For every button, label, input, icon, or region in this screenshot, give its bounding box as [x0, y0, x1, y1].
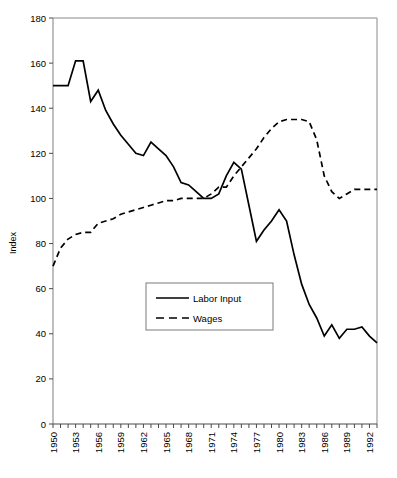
y-tick-label: 20	[35, 373, 46, 384]
x-tick-label: 1983	[296, 432, 307, 453]
x-tick-label: 1986	[319, 432, 330, 453]
x-tick-label: 1980	[274, 432, 285, 453]
legend-label-2: Wages	[193, 313, 222, 324]
x-tick-label: 1974	[228, 432, 239, 453]
x-tick-label: 1968	[183, 432, 194, 453]
x-tick-label: 1950	[48, 432, 59, 453]
x-tick-label: 1953	[70, 432, 81, 453]
y-tick-label: 140	[30, 103, 46, 114]
chart-figure: 020406080100120140160180 195019531956195…	[0, 0, 397, 478]
series-line-wages	[53, 120, 377, 267]
plot-frame	[53, 18, 377, 424]
line-chart: 020406080100120140160180 195019531956195…	[0, 0, 397, 478]
x-axis-ticks: 1950195319561959196219651968197119741977…	[48, 424, 377, 453]
y-tick-label: 60	[35, 283, 46, 294]
chart-legend: Labor InputWages	[146, 283, 273, 330]
y-tick-label: 180	[30, 13, 46, 24]
y-axis-title: Index	[8, 231, 18, 254]
y-tick-label: 100	[30, 193, 46, 204]
x-tick-label: 1956	[93, 432, 104, 453]
x-tick-label: 1965	[161, 432, 172, 453]
y-tick-label: 0	[41, 419, 46, 430]
x-tick-label: 1971	[206, 432, 217, 453]
x-tick-label: 1962	[138, 432, 149, 453]
y-tick-label: 160	[30, 58, 46, 69]
y-tick-label: 40	[35, 328, 46, 339]
x-tick-label: 1989	[341, 432, 352, 453]
x-tick-label: 1959	[115, 432, 126, 453]
y-tick-label: 80	[35, 238, 46, 249]
x-tick-label: 1992	[364, 432, 375, 453]
y-tick-label: 120	[30, 148, 46, 159]
legend-label-1: Labor Input	[193, 293, 241, 304]
y-axis-ticks: 020406080100120140160180	[30, 13, 53, 430]
x-tick-label: 1977	[251, 432, 262, 453]
